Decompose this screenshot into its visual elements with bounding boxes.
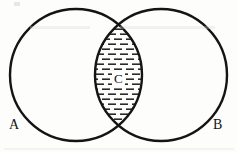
venn-diagram-figure: A B C [0,0,237,152]
set-b-label: B [213,118,222,132]
set-a-label: A [9,118,19,132]
intersection-label: C [112,71,125,86]
